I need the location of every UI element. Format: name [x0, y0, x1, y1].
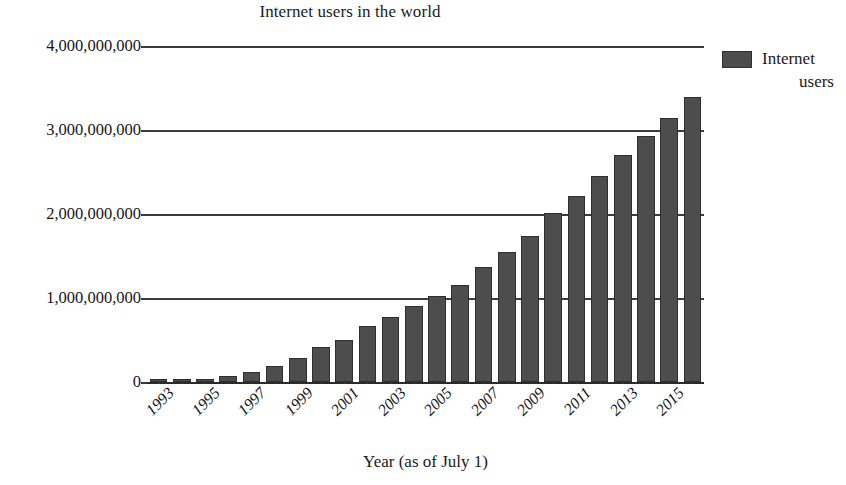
x-tick-label-1999: 1999	[267, 384, 316, 433]
y-tick-label: 3,000,000,000	[5, 120, 141, 140]
chart-title: Internet users in the world	[0, 2, 700, 22]
bar-2001	[335, 340, 353, 382]
bar-2010	[544, 213, 562, 382]
x-tick-mark	[553, 380, 554, 384]
bar-1999	[289, 358, 307, 382]
x-tick-mark	[507, 380, 508, 384]
legend-label-internet-users: Internet users	[762, 48, 840, 94]
y-tick-label: 4,000,000,000	[5, 36, 141, 56]
x-axis-labels: 1993199519971999200120032005200720092011…	[147, 384, 704, 444]
x-tick-mark	[437, 380, 438, 384]
x-tick-label-2013: 2013	[592, 384, 641, 433]
x-tick-mark	[228, 380, 229, 384]
x-tick-label-1997: 1997	[221, 384, 270, 433]
y-tick-label: 0	[5, 372, 141, 392]
x-tick-mark	[182, 380, 183, 384]
x-tick-mark	[484, 380, 485, 384]
x-axis-title: Year (as of July 1)	[147, 452, 704, 472]
x-tick-label-2007: 2007	[453, 384, 502, 433]
bar-2006	[451, 285, 469, 382]
x-tick-mark	[321, 380, 322, 384]
x-tick-mark	[623, 380, 624, 384]
bar-2014	[637, 136, 655, 382]
y-axis-labels: 01,000,000,0002,000,000,0003,000,000,000…	[0, 46, 141, 382]
x-tick-label-2015: 2015	[638, 384, 687, 433]
y-tick-label: 2,000,000,000	[5, 204, 141, 224]
bar-2002	[359, 326, 377, 382]
bar-2012	[591, 176, 609, 382]
bar-2009	[521, 236, 539, 382]
x-tick-mark	[530, 380, 531, 384]
x-tick-mark	[692, 380, 693, 384]
x-tick-mark	[275, 380, 276, 384]
x-tick-mark	[367, 380, 368, 384]
x-tick-mark	[159, 380, 160, 384]
bar-2015	[660, 118, 678, 382]
chart-figure: Internet users in the world 01,000,000,0…	[0, 0, 846, 485]
legend-label-line1: Internet	[762, 49, 815, 68]
x-tick-mark	[251, 380, 252, 384]
x-tick-mark	[414, 380, 415, 384]
y-tick-label: 1,000,000,000	[5, 288, 141, 308]
chart-legend: Internet users	[722, 48, 840, 94]
x-tick-mark	[205, 380, 206, 384]
bar-2004	[405, 306, 423, 382]
x-tick-mark	[576, 380, 577, 384]
x-tick-label-2001: 2001	[313, 384, 362, 433]
bar-2000	[312, 347, 330, 382]
bar-2016	[684, 97, 702, 382]
bar-2008	[498, 252, 516, 382]
bar-series-internet-users	[147, 46, 704, 382]
x-tick-label-2011: 2011	[546, 384, 595, 433]
x-tick-mark	[344, 380, 345, 384]
x-tick-mark	[646, 380, 647, 384]
legend-swatch-internet-users	[722, 51, 752, 68]
bar-2005	[428, 296, 446, 382]
x-tick-mark	[600, 380, 601, 384]
bar-2007	[475, 267, 493, 382]
legend-label-line2: users	[762, 71, 840, 94]
x-tick-label-2009: 2009	[499, 384, 548, 433]
x-tick-label-2005: 2005	[406, 384, 455, 433]
bar-2013	[614, 155, 632, 382]
bar-2003	[382, 317, 400, 382]
bar-2011	[568, 196, 586, 382]
x-tick-mark	[391, 380, 392, 384]
x-tick-mark	[669, 380, 670, 384]
x-tick-mark	[460, 380, 461, 384]
x-tick-label-2003: 2003	[360, 384, 409, 433]
x-tick-mark	[298, 380, 299, 384]
x-tick-label-1995: 1995	[174, 384, 223, 433]
